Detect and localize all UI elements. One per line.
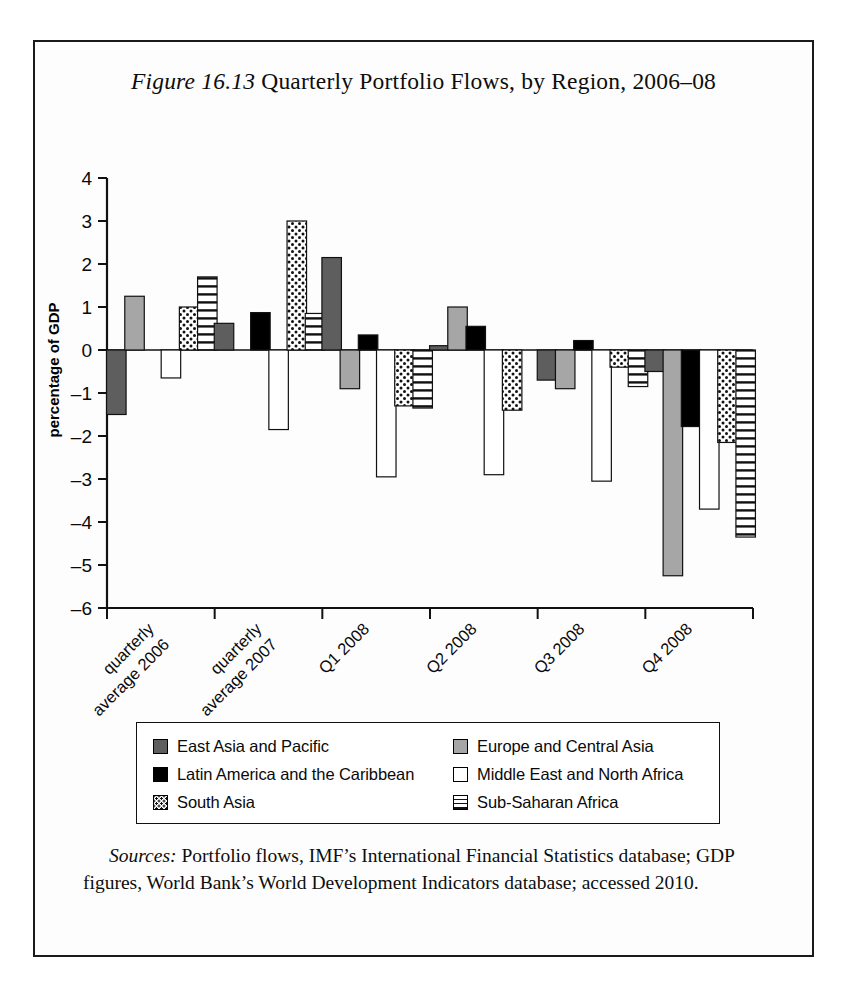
bar	[125, 296, 145, 350]
bar	[555, 350, 575, 389]
bar	[645, 350, 665, 372]
x-axis-category-label: Q2 2008	[422, 619, 479, 676]
y-axis-tick-label: 1	[81, 297, 92, 318]
bar	[251, 313, 271, 350]
y-axis-title: percentage of GDP	[45, 302, 62, 437]
x-axis-category-line: Q4 2008	[638, 619, 695, 676]
legend-item-label: Sub-Saharan Africa	[477, 793, 618, 812]
bar	[161, 350, 181, 378]
bar	[287, 221, 307, 350]
chart-legend: East Asia and PacificEurope and Central …	[136, 722, 720, 824]
legend-swatch-icon	[453, 739, 468, 754]
sources-label: Sources:	[109, 845, 177, 866]
bar	[681, 350, 701, 427]
x-axis-category-line: Q3 2008	[530, 619, 587, 676]
legend-swatch-icon	[453, 795, 468, 810]
figure-number: Figure 16.13	[131, 68, 255, 94]
legend-item-label: East Asia and Pacific	[177, 737, 329, 756]
legend-item[interactable]: Latin America and the Caribbean	[153, 765, 453, 784]
chart-plot-area: 43210–1–2–3–4–5–6 quarterlyaverage 2006q…	[35, 120, 816, 740]
bar	[377, 350, 397, 477]
legend-item[interactable]: South Asia	[153, 793, 453, 812]
y-axis-tick-label: –1	[71, 383, 92, 404]
legend-item[interactable]: Europe and Central Asia	[453, 737, 737, 756]
bar	[448, 307, 468, 350]
legend-item-label: Latin America and the Caribbean	[177, 765, 414, 784]
x-axis-category-line: Q1 2008	[315, 619, 372, 676]
bar	[358, 335, 378, 350]
legend-swatch-icon	[153, 739, 168, 754]
y-axis-tick-label: 3	[81, 211, 92, 232]
bars-layer	[107, 221, 756, 576]
bar	[610, 350, 630, 367]
y-axis-tick-label: –3	[71, 469, 92, 490]
legend-item[interactable]: East Asia and Pacific	[153, 737, 453, 756]
legend-item-label: South Asia	[177, 793, 255, 812]
sources-note: Sources: Portfolio flows, IMF’s Internat…	[83, 842, 783, 896]
bar	[340, 350, 360, 389]
category-labels-layer: quarterlyaverage 2006quarterlyaverage 20…	[88, 619, 695, 719]
x-axis-category-label: Q1 2008	[315, 619, 372, 676]
legend-item-label: Middle East and North Africa	[477, 765, 683, 784]
y-axis-tick-label: –5	[71, 555, 92, 576]
legend-swatch-icon	[153, 767, 168, 782]
legend-item-label: Europe and Central Asia	[477, 737, 654, 756]
bar	[574, 341, 594, 350]
bar	[466, 326, 486, 350]
x-axis-category-label: Q4 2008	[638, 619, 695, 676]
legend-item[interactable]: Sub-Saharan Africa	[453, 793, 737, 812]
bar	[413, 350, 433, 408]
legend-item[interactable]: Middle East and North Africa	[453, 765, 737, 784]
y-axis-tick-label: –2	[71, 426, 92, 447]
figure-title: Figure 16.13 Quarterly Portfolio Flows, …	[35, 68, 812, 95]
y-axis-tick-label: 0	[81, 340, 92, 361]
bar	[395, 350, 415, 406]
y-axis-tick-label: –4	[71, 512, 93, 533]
figure-title-text: Quarterly Portfolio Flows, by Region, 20…	[255, 68, 716, 94]
y-axis-tick-label: 2	[81, 254, 92, 275]
bar	[322, 258, 342, 350]
bar	[502, 350, 522, 410]
x-axis-category-label: Q3 2008	[530, 619, 587, 676]
bar	[663, 350, 683, 576]
x-axis-category-label: quarterlyaverage 2007	[196, 619, 280, 719]
sources-text: Portfolio flows, IMF’s International Fin…	[83, 845, 734, 893]
bar	[592, 350, 612, 481]
figure-page-frame: Figure 16.13 Quarterly Portfolio Flows, …	[33, 40, 814, 957]
legend-swatch-icon	[153, 795, 168, 810]
legend-grid: East Asia and PacificEurope and Central …	[137, 732, 719, 816]
bar-chart-svg: 43210–1–2–3–4–5–6 quarterlyaverage 2006q…	[35, 120, 816, 740]
bar	[718, 350, 738, 442]
bar	[484, 350, 504, 475]
bar	[537, 350, 557, 380]
bar	[430, 346, 450, 350]
x-axis-category-label: quarterlyaverage 2006	[88, 619, 172, 719]
bar	[179, 307, 199, 350]
y-axis-tick-label: 4	[81, 168, 92, 189]
bar	[269, 350, 289, 430]
bar	[107, 350, 127, 415]
bar	[214, 323, 234, 350]
legend-swatch-icon	[453, 767, 468, 782]
bar	[736, 350, 756, 537]
y-axis-tick-label: –6	[71, 598, 92, 619]
x-axis-category-line: Q2 2008	[422, 619, 479, 676]
bar	[700, 350, 720, 509]
